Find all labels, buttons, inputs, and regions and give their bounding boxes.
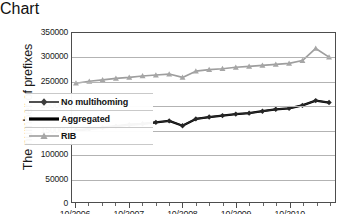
x-tick-mark bbox=[317, 203, 318, 206]
gridline bbox=[72, 155, 335, 156]
x-tick-mark bbox=[88, 203, 89, 206]
x-tick-mark bbox=[156, 203, 157, 206]
x-axis-tick-labels: 10/200610/200710/200810/200910/2010 bbox=[0, 209, 355, 214]
no-multihoming-marker bbox=[246, 110, 251, 115]
x-tick-mark bbox=[276, 203, 277, 206]
gridline bbox=[72, 57, 335, 58]
x-tick-mark bbox=[330, 203, 331, 206]
x-tick-label: 10/2010 bbox=[275, 209, 305, 214]
y-tick-label: 350000 bbox=[41, 27, 68, 37]
x-tick-mark bbox=[102, 203, 103, 206]
no-multihoming-marker bbox=[220, 113, 225, 118]
no-multihoming-marker bbox=[260, 109, 265, 114]
x-tick-mark bbox=[209, 203, 210, 206]
y-tick-label: 0 bbox=[63, 198, 68, 208]
y-tick-label: 100000 bbox=[41, 149, 68, 159]
x-tick-label: 10/2008 bbox=[167, 209, 197, 214]
x-tick-mark bbox=[115, 203, 116, 206]
x-tick-mark bbox=[223, 203, 224, 206]
x-tick-mark bbox=[303, 203, 304, 206]
x-tick-mark bbox=[236, 203, 237, 208]
rib-marker bbox=[313, 46, 319, 51]
x-tick-mark bbox=[142, 203, 143, 206]
gridline bbox=[72, 180, 335, 181]
y-tick-label: 300000 bbox=[41, 51, 68, 61]
legend-item-no-multihoming: No multihoming bbox=[25, 93, 153, 110]
y-tick-label: 50000 bbox=[45, 174, 68, 184]
rib-line bbox=[76, 48, 329, 83]
no-multihoming-marker bbox=[153, 120, 158, 125]
no-multihoming-marker bbox=[233, 111, 238, 116]
x-tick-mark bbox=[169, 203, 170, 206]
x-tick-mark bbox=[263, 203, 264, 206]
x-tick-label: 10/2009 bbox=[221, 209, 251, 214]
x-tick-mark bbox=[196, 203, 197, 206]
triangle-marker-icon bbox=[27, 130, 61, 142]
chart-legend: No multihoming Aggregated RIB bbox=[25, 93, 153, 145]
x-tick-mark bbox=[290, 203, 291, 208]
x-tick-mark bbox=[182, 203, 183, 208]
no-multihoming-marker bbox=[326, 100, 331, 105]
legend-item-aggregated: Aggregated bbox=[25, 110, 153, 127]
diamond-marker-icon bbox=[27, 96, 61, 108]
thick-line-icon bbox=[27, 113, 61, 125]
x-tick-label: 10/2006 bbox=[60, 209, 90, 214]
chart-figure: The number of prefixes 05000010000015000… bbox=[0, 18, 355, 214]
legend-label-no-multihoming: No multihoming bbox=[61, 97, 128, 107]
no-multihoming-marker bbox=[206, 114, 211, 119]
x-tick-mark bbox=[129, 203, 130, 208]
legend-item-rib: RIB bbox=[25, 127, 153, 145]
x-tick-mark bbox=[75, 203, 76, 208]
gridline bbox=[72, 82, 335, 83]
legend-label-aggregated: Aggregated bbox=[61, 114, 110, 124]
y-tick-label: 250000 bbox=[41, 76, 68, 86]
x-tick-label: 10/2007 bbox=[113, 209, 143, 214]
legend-label-rib: RIB bbox=[61, 131, 76, 141]
x-tick-mark bbox=[249, 203, 250, 206]
no-multihoming-marker bbox=[273, 107, 278, 112]
